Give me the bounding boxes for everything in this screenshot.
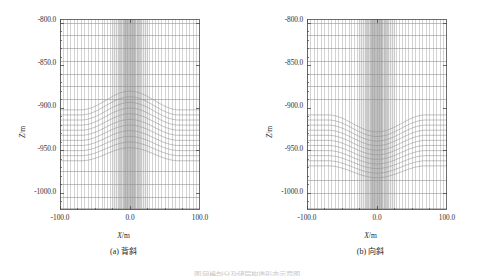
x-tick-label: 0.0 xyxy=(108,214,152,222)
figure-bottom-caption: 图 网格剖分及储层构造形态示意图 xyxy=(0,268,494,276)
x-axis-title-syncline: X/m xyxy=(247,231,494,240)
panel-caption-syncline: (b) 向斜 xyxy=(247,245,494,256)
panel-syncline: -800.0 -850.0 -900.0 -950.0 -1000.0 Z/m … xyxy=(247,0,494,276)
panel-anticline: -800.0 -850.0 -900.0 -950.0 -1000.0 Z/m … xyxy=(0,0,247,276)
x-axis-title-anticline: X/m xyxy=(0,231,247,240)
x-tick-label: 100.0 xyxy=(178,214,222,222)
x-tick-label: -100.0 xyxy=(285,214,329,222)
figure-container: -800.0 -850.0 -900.0 -950.0 -1000.0 Z/m … xyxy=(0,0,494,276)
panel-caption-anticline: (a) 背斜 xyxy=(0,245,247,256)
x-tick-label: 0.0 xyxy=(355,214,399,222)
x-tick-label: 100.0 xyxy=(425,214,469,222)
x-tick-label: -100.0 xyxy=(38,214,82,222)
x-axis-title-unit: /m xyxy=(369,231,377,240)
x-axis-title-unit: /m xyxy=(122,231,130,240)
